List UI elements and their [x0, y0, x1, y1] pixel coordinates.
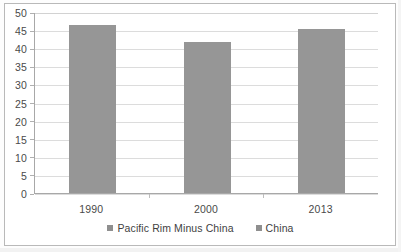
x-axis-category-label: 1990 [34, 203, 149, 215]
legend-swatch-icon [107, 225, 113, 231]
y-axis-tick-label: 0 [0, 188, 34, 200]
y-axis-tick-label: 40 [0, 43, 34, 55]
y-axis-tick-label: 50 [0, 7, 34, 19]
y-axis-tick-text: 10 [15, 152, 34, 164]
y-axis-tick-text: 35 [15, 61, 34, 73]
scan-artifact-bottom [0, 248, 401, 252]
y-axis-tick-text: 20 [15, 116, 34, 128]
y-axis-tick-text: 45 [15, 25, 34, 37]
y-axis-tick-label: 35 [0, 61, 34, 73]
y-axis-tick-label: 20 [0, 116, 34, 128]
x-axis: 199020002013 [34, 194, 378, 220]
legend-item[interactable]: Pacific Rim Minus China [107, 222, 233, 234]
y-axis-tick-text: 40 [15, 43, 34, 55]
y-axis-tick-text: 50 [15, 7, 34, 19]
y-axis-tick-text: 5 [21, 170, 34, 182]
legend-item-label: China [266, 222, 294, 234]
y-axis-tick-text: 25 [15, 98, 34, 110]
bar [184, 42, 231, 193]
chart-screenshot: 05101520253035404550 199020002013 Pacifi… [0, 0, 401, 252]
bar [298, 29, 345, 193]
y-axis-tick-text: 30 [15, 79, 34, 91]
bar-series-group [35, 13, 378, 193]
y-axis-tick-label: 15 [0, 134, 34, 146]
y-axis-tick-label: 5 [0, 170, 34, 182]
y-axis-tick-label: 30 [0, 79, 34, 91]
y-axis: 05101520253035404550 [0, 13, 34, 194]
x-axis-tick-mark [149, 194, 150, 198]
y-axis-tick-label: 45 [0, 25, 34, 37]
x-axis-category-label: 2000 [149, 203, 264, 215]
chart-legend: Pacific Rim Minus ChinaChina [0, 222, 401, 234]
bar [69, 25, 116, 193]
y-axis-tick-label: 25 [0, 98, 34, 110]
plot-area [34, 13, 378, 194]
y-axis-tick-text: 0 [21, 188, 34, 200]
x-axis-tick-mark [263, 194, 264, 198]
x-axis-category-label: 2013 [263, 203, 378, 215]
legend-item[interactable]: China [256, 222, 294, 234]
legend-item-label: Pacific Rim Minus China [117, 222, 233, 234]
y-axis-tick-text: 15 [15, 134, 34, 146]
y-axis-tick-label: 10 [0, 152, 34, 164]
legend-swatch-icon [256, 225, 262, 231]
